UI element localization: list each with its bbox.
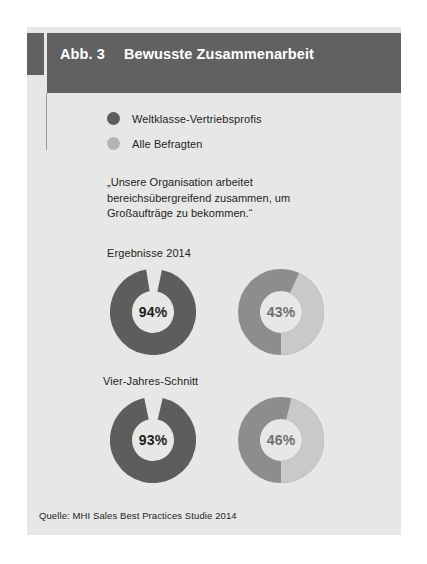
- legend-label: Weltklasse-Vertriebsprofis: [132, 113, 262, 125]
- source-note: Quelle: MHI Sales Best Practices Studie …: [39, 510, 237, 521]
- page-title: Bewusste Zusammenarbeit: [124, 46, 314, 62]
- survey-question-quote: „Unsere Organisation arbeitet bereichsü…: [107, 175, 357, 222]
- legend-item-all-respondents: Alle Befragten: [107, 137, 262, 150]
- header-accent-block: [27, 33, 44, 75]
- donut-chart-4yr-all-respondents: 46%: [238, 397, 324, 483]
- header-vertical-rule: [46, 93, 47, 150]
- legend-item-world-class: Weltklasse-Vertriebsprofis: [107, 112, 262, 125]
- donut-chart-4yr-world-class: 93%: [110, 397, 196, 483]
- legend-label: Alle Befragten: [132, 138, 203, 150]
- donut-svg: [238, 397, 324, 483]
- donut-svg: [110, 269, 196, 355]
- donut-svg: [110, 397, 196, 483]
- figure-header-title: Abb. 3 Bewusste Zusammenarbeit: [60, 46, 314, 62]
- figure-number: Abb. 3: [60, 46, 105, 62]
- group-label-ergebnisse-2014: Ergebnisse 2014: [107, 247, 191, 259]
- legend-dot-dark-icon: [107, 112, 120, 125]
- donut-chart-2014-all-respondents: 43%: [238, 269, 324, 355]
- figure-header-band: Abb. 3 Bewusste Zusammenarbeit: [47, 33, 401, 93]
- chart-legend: Weltklasse-Vertriebsprofis Alle Befragte…: [107, 112, 262, 162]
- donut-chart-2014-world-class: 94%: [110, 269, 196, 355]
- legend-dot-light-icon: [107, 137, 120, 150]
- donut-svg: [238, 269, 324, 355]
- group-label-vier-jahres-schnitt: Vier-Jahres-Schnitt: [103, 375, 198, 387]
- figure-card: Abb. 3 Bewusste Zusammenarbeit Weltklass…: [27, 27, 401, 535]
